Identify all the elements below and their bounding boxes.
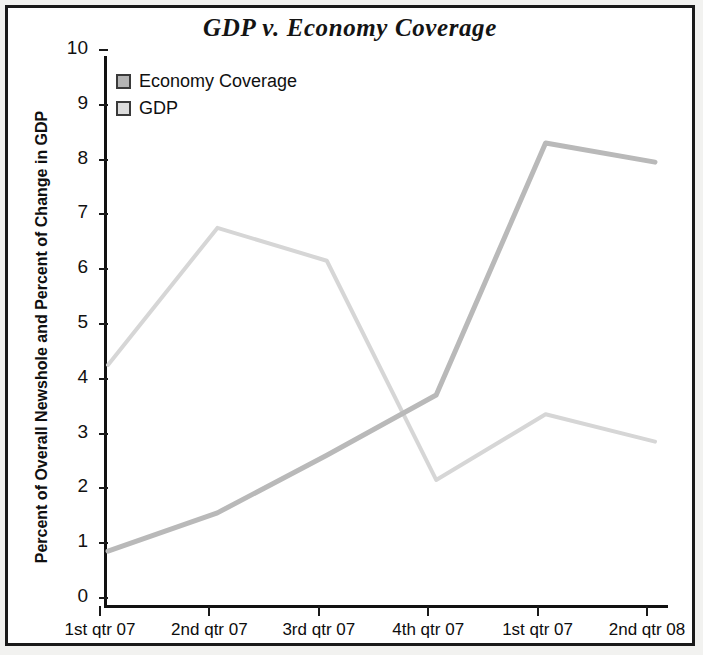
y-tick-label-1: 1 — [18, 530, 88, 552]
series-line-gdp — [108, 228, 655, 480]
chart-legend: Economy Coverage GDP — [116, 68, 297, 122]
y-tick-6 — [99, 268, 108, 270]
y-tick-label-8: 8 — [18, 147, 88, 169]
x-tick-1 — [208, 606, 210, 616]
x-tick-label-1: 2nd qtr 07 — [154, 620, 264, 640]
x-tick-label-3: 4th qtr 07 — [373, 620, 483, 640]
y-tick-10 — [99, 49, 108, 51]
x-tick-label-4: 1st qtr 07 — [483, 620, 593, 640]
legend-item-gdp: GDP — [116, 95, 297, 122]
y-tick-label-2: 2 — [18, 475, 88, 497]
y-tick-label-0: 0 — [18, 585, 88, 607]
legend-label-economy-coverage: Economy Coverage — [139, 71, 297, 92]
y-tick-0 — [99, 597, 108, 599]
chart-series-plot — [8, 8, 703, 655]
y-tick-label-3: 3 — [18, 421, 88, 443]
y-tick-5 — [99, 323, 108, 325]
legend-swatch-economy-coverage — [116, 74, 131, 89]
legend-label-gdp: GDP — [139, 98, 178, 119]
x-axis-line — [104, 605, 668, 608]
x-tick-2 — [318, 606, 320, 616]
x-tick-4 — [537, 606, 539, 616]
y-tick-3 — [99, 433, 108, 435]
y-tick-label-9: 9 — [18, 92, 88, 114]
x-tick-3 — [427, 606, 429, 616]
page-title: GDP v. Economy Coverage — [8, 14, 692, 42]
y-tick-label-10: 10 — [18, 37, 88, 59]
series-line-economy-coverage — [108, 143, 655, 551]
scanned-page-background: GDP v. Economy Coverage Percent of Overa… — [0, 0, 703, 655]
y-tick-label-5: 5 — [18, 311, 88, 333]
legend-swatch-gdp — [116, 101, 131, 116]
y-tick-9 — [99, 104, 108, 106]
y-tick-label-6: 6 — [18, 256, 88, 278]
x-tick-0 — [99, 606, 101, 616]
y-tick-1 — [99, 542, 108, 544]
chart-frame: GDP v. Economy Coverage Percent of Overa… — [5, 5, 695, 646]
y-tick-label-7: 7 — [18, 201, 88, 223]
y-tick-4 — [99, 378, 108, 380]
y-tick-2 — [99, 487, 108, 489]
y-axis-line — [104, 56, 107, 608]
x-tick-label-5: 2nd qtr 08 — [592, 620, 702, 640]
x-tick-label-2: 3rd qtr 07 — [264, 620, 374, 640]
legend-item-economy-coverage: Economy Coverage — [116, 68, 297, 95]
x-tick-label-0: 1st qtr 07 — [45, 620, 155, 640]
y-tick-label-4: 4 — [18, 366, 88, 388]
y-tick-7 — [99, 213, 108, 215]
x-tick-5 — [646, 606, 648, 616]
y-tick-8 — [99, 159, 108, 161]
